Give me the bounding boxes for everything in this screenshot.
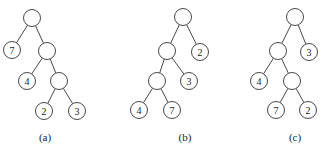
node-label: 3 xyxy=(187,76,192,87)
node-circle xyxy=(51,73,68,90)
leaf-node: 4 xyxy=(19,73,36,90)
node-label: 2 xyxy=(306,105,311,116)
internal-node xyxy=(149,73,166,90)
tree-edge xyxy=(17,25,28,43)
node-label: 3 xyxy=(75,106,80,117)
node-circle xyxy=(270,43,287,60)
node-circle xyxy=(149,73,166,90)
leaf-node: 7 xyxy=(164,102,181,119)
leaf-node: 7 xyxy=(4,42,21,59)
tree-edge xyxy=(32,58,43,74)
node-label: 4 xyxy=(25,76,30,87)
internal-node xyxy=(284,73,301,90)
node-label: 7 xyxy=(10,45,15,56)
tree-edge xyxy=(282,25,291,44)
tree-a: 7423(a) xyxy=(4,10,86,145)
leaf-node: 4 xyxy=(131,102,148,119)
node-circle xyxy=(175,9,192,26)
tree-edge xyxy=(282,59,289,74)
tree-b: 2347(b) xyxy=(131,9,209,145)
leaf-node: 3 xyxy=(181,73,198,90)
internal-node xyxy=(287,9,304,26)
leaf-node: 4 xyxy=(251,73,268,90)
tree-edge xyxy=(36,26,44,44)
internal-node xyxy=(39,43,56,60)
node-circle xyxy=(159,43,176,60)
tree-edge xyxy=(172,58,184,74)
tree-edge xyxy=(187,25,197,45)
leaf-node: 3 xyxy=(301,44,318,61)
tree-caption: (b) xyxy=(179,131,192,144)
tree-caption: (a) xyxy=(39,131,52,144)
internal-node xyxy=(159,43,176,60)
internal-node xyxy=(175,9,192,26)
node-label: 7 xyxy=(274,105,279,116)
tree-c: 3472(c) xyxy=(251,9,318,145)
internal-node xyxy=(24,10,41,27)
node-circle xyxy=(287,9,304,26)
tree-edge xyxy=(50,59,56,73)
node-label: 7 xyxy=(170,105,175,116)
tree-edge xyxy=(48,89,55,104)
tree-edge xyxy=(160,59,165,73)
leaf-node: 2 xyxy=(300,102,317,119)
tree-edge xyxy=(161,89,168,103)
tree-edge xyxy=(296,88,304,102)
tree-edge xyxy=(264,58,274,74)
tree-edge xyxy=(143,88,152,103)
internal-node xyxy=(270,43,287,60)
node-label: 2 xyxy=(42,106,47,117)
node-circle xyxy=(284,73,301,90)
node-label: 4 xyxy=(137,105,142,116)
tree-edge xyxy=(298,25,306,44)
leaf-node: 2 xyxy=(36,103,53,120)
node-label: 4 xyxy=(257,76,262,87)
node-label: 2 xyxy=(198,47,203,58)
node-circle xyxy=(39,43,56,60)
binary-trees-figure: 7423(a)2347(b)3472(c) xyxy=(0,0,330,150)
leaf-node: 3 xyxy=(69,103,86,120)
node-circle xyxy=(24,10,41,27)
tree-edge xyxy=(280,88,288,102)
tree-edge xyxy=(63,88,72,103)
leaf-node: 7 xyxy=(268,102,285,119)
leaf-node: 2 xyxy=(192,44,209,61)
tree-edge xyxy=(171,25,180,44)
tree-caption: (c) xyxy=(289,131,302,144)
internal-node xyxy=(51,73,68,90)
node-label: 3 xyxy=(307,47,312,58)
